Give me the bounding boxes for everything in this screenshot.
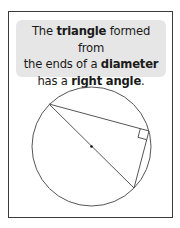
triangle-side-upper <box>49 104 149 131</box>
circle-diagram <box>0 0 180 228</box>
center-point <box>90 145 93 148</box>
